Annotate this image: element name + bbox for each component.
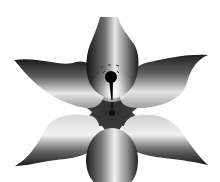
flower-graphic (0, 0, 220, 182)
center-stem (111, 102, 113, 110)
flower-illustration (0, 0, 220, 182)
center-dot (109, 110, 115, 116)
